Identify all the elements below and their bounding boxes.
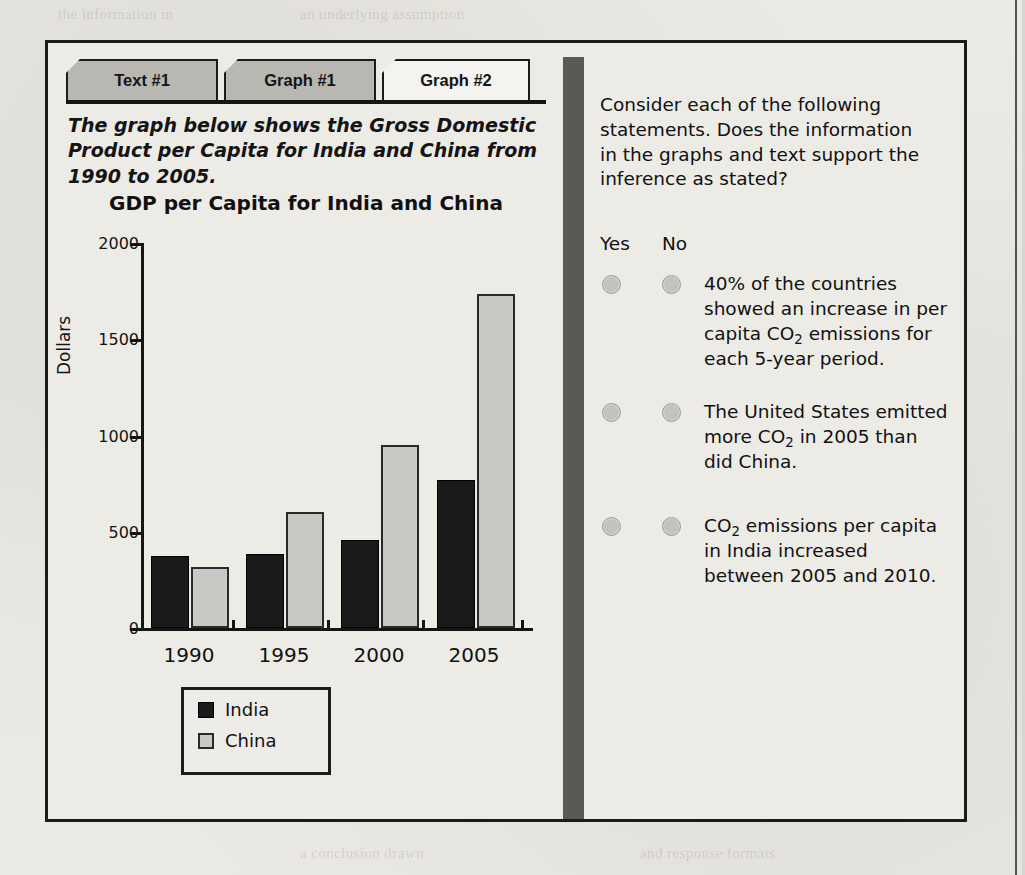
bar-china-1995 bbox=[286, 512, 324, 628]
bar-china-2000 bbox=[381, 445, 419, 628]
x-label-1995: 1995 bbox=[259, 643, 310, 667]
ghost-text-line3: a conclusion drawn bbox=[300, 845, 424, 862]
ghost-text-line4: and response formats bbox=[640, 845, 775, 862]
y-tick-label-0: 0 bbox=[69, 619, 139, 638]
ghost-text-line1: the information in bbox=[58, 6, 174, 23]
stimulus-pane: Text #1 Graph #1 Graph #2 The graph belo… bbox=[48, 43, 560, 819]
tab-graph-1[interactable]: Graph #1 bbox=[224, 59, 376, 100]
column-header-no: No bbox=[662, 233, 687, 254]
x-axis-labels: 1990 1995 2000 2005 bbox=[141, 643, 533, 671]
tab-graph-1-label: Graph #1 bbox=[264, 71, 336, 90]
subscript-2: 2 bbox=[785, 435, 793, 450]
bar-india-1990 bbox=[151, 556, 189, 628]
tab-strip: Text #1 Graph #1 Graph #2 bbox=[66, 59, 546, 101]
x-minor-tick-1 bbox=[232, 620, 235, 631]
answer-column-headers: Yes No bbox=[600, 233, 800, 259]
subscript-2: 2 bbox=[794, 332, 802, 347]
bar-india-2000 bbox=[341, 540, 379, 628]
stimulus-prompt: The graph below shows the Gross Domestic… bbox=[68, 113, 538, 189]
x-label-2000: 2000 bbox=[354, 643, 405, 667]
ghost-text-line2: an underlying assumption bbox=[300, 6, 465, 23]
legend-entry-china: China bbox=[198, 730, 328, 751]
page-rule bbox=[1015, 0, 1017, 875]
plot-area: 0 500 1000 1500 2000 bbox=[141, 243, 531, 628]
radio-yes-2[interactable] bbox=[602, 403, 621, 422]
gdp-bar-chart: Dollars 0 500 1000 1500 2000 bbox=[66, 225, 550, 695]
pane-divider bbox=[563, 57, 584, 819]
y-tick-label-500: 500 bbox=[69, 523, 139, 542]
radio-no-1[interactable] bbox=[662, 275, 681, 294]
bar-china-1990 bbox=[191, 567, 229, 628]
x-label-2005: 2005 bbox=[449, 643, 500, 667]
y-tick-label-1500: 1500 bbox=[69, 330, 139, 349]
radio-no-2[interactable] bbox=[662, 403, 681, 422]
chart-legend: India China bbox=[181, 687, 331, 775]
bar-india-1995 bbox=[246, 554, 284, 628]
tab-graph-2[interactable]: Graph #2 bbox=[382, 59, 530, 100]
x-minor-tick-2 bbox=[327, 620, 330, 631]
column-header-yes: Yes bbox=[600, 233, 630, 254]
exhibit-box: Text #1 Graph #1 Graph #2 The graph belo… bbox=[45, 40, 967, 822]
legend-swatch-china bbox=[198, 733, 214, 749]
y-tick-label-1000: 1000 bbox=[69, 427, 139, 446]
question-text-1: 40% of the countries showed an increase … bbox=[704, 271, 948, 372]
tab-text-1[interactable]: Text #1 bbox=[66, 59, 218, 100]
question-text-3: CO2 emissions per capita in India increa… bbox=[704, 513, 948, 588]
legend-label-china: China bbox=[225, 730, 276, 751]
question-text-2: The United States emitted more CO2 in 20… bbox=[704, 399, 948, 474]
legend-label-india: India bbox=[225, 699, 269, 720]
radio-yes-1[interactable] bbox=[602, 275, 621, 294]
question-intro: Consider each of the following statement… bbox=[600, 93, 930, 192]
bar-india-2005 bbox=[437, 480, 475, 628]
bar-china-2005 bbox=[477, 294, 515, 628]
subscript-2: 2 bbox=[731, 524, 739, 539]
x-minor-tick-3 bbox=[422, 620, 425, 631]
radio-no-3[interactable] bbox=[662, 517, 681, 536]
x-label-1990: 1990 bbox=[164, 643, 215, 667]
chart-title: GDP per Capita for India and China bbox=[68, 191, 544, 215]
tab-graph-2-label: Graph #2 bbox=[420, 71, 492, 90]
radio-yes-3[interactable] bbox=[602, 517, 621, 536]
x-minor-tick-4 bbox=[521, 620, 524, 631]
x-axis-line bbox=[141, 628, 533, 631]
tab-underline bbox=[66, 100, 546, 104]
legend-entry-india: India bbox=[198, 699, 328, 720]
tab-text-1-label: Text #1 bbox=[114, 71, 170, 90]
question-pane: Consider each of the following statement… bbox=[600, 43, 960, 819]
y-tick-label-2000: 2000 bbox=[69, 234, 139, 253]
legend-swatch-india bbox=[198, 702, 214, 718]
